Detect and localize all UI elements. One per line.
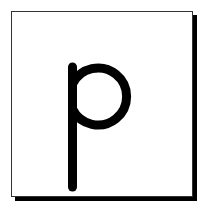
letter-p-glyph bbox=[0, 0, 209, 212]
letter-p-bowl bbox=[73, 68, 127, 125]
